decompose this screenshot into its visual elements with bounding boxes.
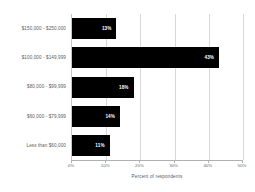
bar: 14% [72,106,120,127]
bar: 43% [72,47,219,68]
bar-row: 43% [72,43,243,72]
bar-value-label: 13% [102,26,117,31]
category-label-item: $150,000 - $250,000 [0,14,70,43]
bar-row: 18% [72,72,243,101]
bars-layer: 13% 43% 18% 14% 11% [72,14,243,160]
bar-value-label: 11% [95,143,109,148]
category-label-text: $150,000 - $250,000 [22,26,66,31]
x-tick-label: 0% [68,163,74,168]
x-tick-label: 10% [101,163,110,168]
bar-row: 14% [72,102,243,131]
bar: 18% [72,77,134,98]
category-label-text: $80,000 - $99,999 [27,84,66,89]
x-tick-label: 40% [203,163,212,168]
bar-chart: $150,000 - $250,000 $100,000 - $149,999 … [0,0,255,192]
bar-value-label: 18% [119,85,134,90]
x-axis-tick-labels: 0%10%20%30%40%50% [71,163,243,171]
bar-row: 13% [72,14,243,43]
category-label-item: $100,000 - $149,999 [0,43,70,72]
x-tick-label: 20% [135,163,144,168]
x-tick-label: 30% [169,163,178,168]
category-label-text: Less than $60,000 [26,143,66,148]
category-axis: $150,000 - $250,000 $100,000 - $149,999 … [0,14,70,160]
category-label-text: $60,000 - $79,999 [27,114,66,119]
bar-value-label: 43% [205,55,220,60]
category-label-item: $60,000 - $79,999 [0,102,70,131]
category-label-item: $80,000 - $99,999 [0,72,70,101]
gridline [243,14,244,160]
plot-area: 13% 43% 18% 14% 11% [71,14,243,160]
bar: 13% [72,18,116,39]
category-label-text: $100,000 - $149,999 [22,55,66,60]
x-tick-label: 50% [238,163,247,168]
x-axis-title: Percent of respondents [71,174,243,179]
bar-value-label: 14% [105,114,120,119]
category-label-item: Less than $60,000 [0,131,70,160]
bar-row: 11% [72,131,243,160]
bar: 11% [72,135,110,156]
